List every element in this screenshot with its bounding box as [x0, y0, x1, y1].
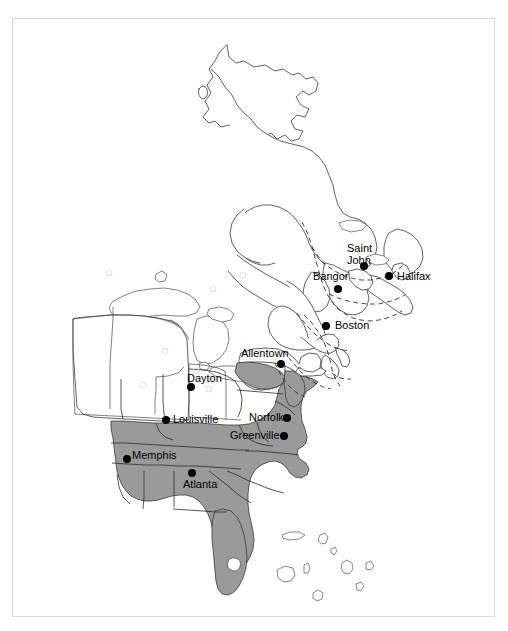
- cape-cod: [336, 348, 350, 367]
- city-label-bangor: Bangor: [313, 270, 348, 282]
- city-label-atlanta: Atlanta: [183, 478, 217, 490]
- city-label-line: Allentown: [241, 347, 289, 359]
- map-canvas: [13, 19, 495, 617]
- city-label-louisville: Louisville: [173, 413, 218, 425]
- city-label-line: Norfolk: [249, 411, 284, 423]
- city-label-line: Louisville: [173, 413, 218, 425]
- city-label-boston: Boston: [335, 319, 369, 331]
- bahamas-islands: [277, 532, 374, 601]
- city-marker-boston: [322, 322, 330, 330]
- city-marker-dayton: [187, 383, 195, 391]
- city-label-line: Bangor: [313, 270, 348, 282]
- city-label-line: Greenville: [230, 429, 280, 441]
- city-marker-bangor: [334, 285, 342, 293]
- city-marker-halifax: [385, 272, 393, 280]
- city-marker-greenville: [280, 432, 288, 440]
- unshaded-states-outline: [73, 315, 189, 422]
- city-label-saint-john: SaintJohn: [347, 242, 372, 266]
- map-figure: SaintJohnHalifaxBangorBostonAllentownDay…: [0, 0, 508, 631]
- canada-northern-coastline: [199, 45, 319, 141]
- city-marker-louisville: [162, 416, 170, 424]
- city-label-line: Boston: [335, 319, 369, 331]
- city-label-memphis: Memphis: [132, 449, 177, 461]
- city-label-greenville: Greenville: [230, 429, 280, 441]
- city-label-dayton: Dayton: [187, 372, 222, 384]
- city-label-halifax: Halifax: [397, 270, 431, 282]
- city-marker-allentown: [277, 360, 285, 368]
- city-marker-atlanta: [188, 469, 196, 477]
- city-label-line: Memphis: [132, 449, 177, 461]
- city-label-line: Dayton: [187, 372, 222, 384]
- city-marker-memphis: [123, 455, 131, 463]
- city-label-norfolk: Norfolk: [249, 411, 284, 423]
- city-label-line: Halifax: [397, 270, 431, 282]
- city-label-allentown: Allentown: [241, 347, 289, 359]
- city-label-line: John: [347, 254, 372, 266]
- city-marker-norfolk: [283, 414, 291, 422]
- city-label-line: Saint: [347, 242, 372, 254]
- map-frame: SaintJohnHalifaxBangorBostonAllentownDay…: [12, 18, 495, 617]
- city-label-line: Atlanta: [183, 478, 217, 490]
